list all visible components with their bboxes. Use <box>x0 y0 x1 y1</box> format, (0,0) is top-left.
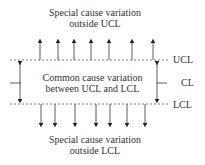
bottom-text-line1: Special cause variation <box>40 134 150 145</box>
cl-label: CL <box>181 77 194 88</box>
middle-text-line1: Common cause variation <box>30 72 155 83</box>
top-text-line2: outside UCL <box>40 18 150 29</box>
up-arrows <box>40 41 153 60</box>
lcl-label: LCL <box>173 99 192 110</box>
down-arrows <box>41 104 145 125</box>
middle-text-line2: between UCL and LCL <box>30 83 155 94</box>
top-text-line1: Special cause variation <box>40 7 150 18</box>
ucl-label: UCL <box>173 54 193 65</box>
bottom-text-line2: outside LCL <box>40 145 150 156</box>
